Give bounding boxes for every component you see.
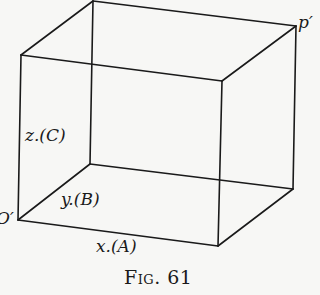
edge-top-front — [21, 55, 222, 81]
edge-top-back — [93, 1, 296, 26]
label-z-axis: z.(C) — [25, 127, 66, 144]
label-corner-p: p′ — [298, 14, 313, 31]
edge-front-right-vertical — [218, 81, 222, 246]
edge-top-left — [21, 1, 93, 55]
edge-z-front-left — [18, 55, 21, 220]
edge-bottom-back — [90, 164, 293, 189]
edge-back-left-vertical — [90, 1, 93, 164]
edge-back-right-vertical — [293, 26, 296, 189]
label-y-axis: y.(B) — [61, 191, 100, 208]
parallelepiped-diagram — [0, 0, 320, 295]
edge-bottom-right — [218, 189, 293, 246]
edge-top-right — [222, 26, 296, 81]
figure-caption: Fig. 61 — [124, 266, 192, 288]
label-origin: O′ — [0, 210, 14, 227]
label-x-axis: x.(A) — [96, 238, 137, 255]
